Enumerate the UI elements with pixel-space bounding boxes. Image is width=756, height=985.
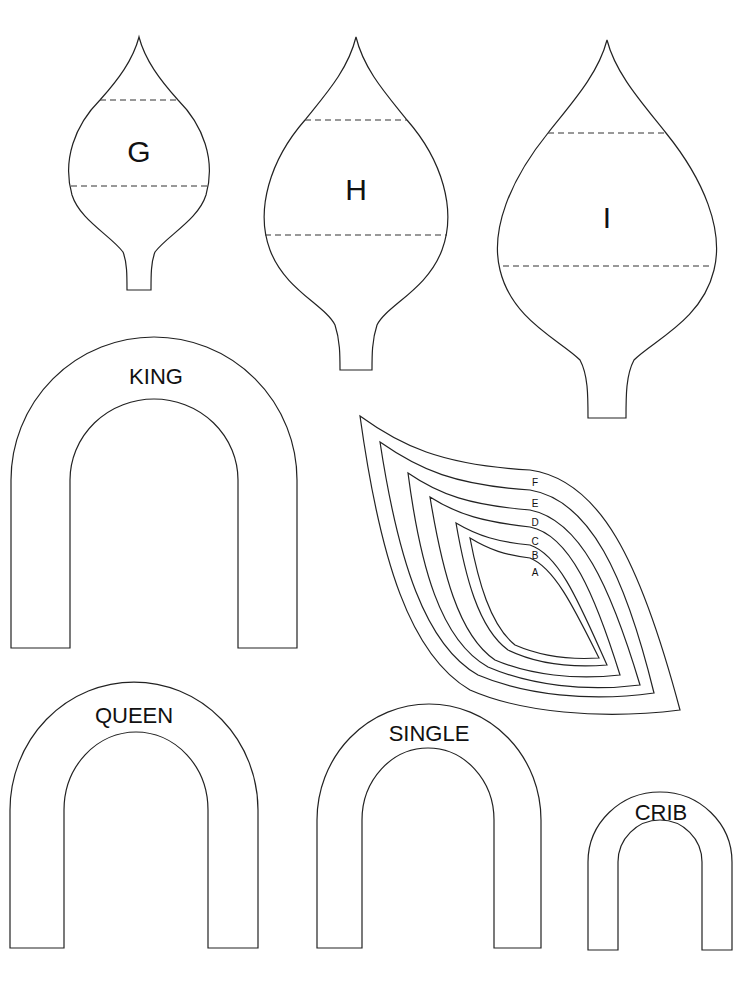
petal-i-label: I [603, 201, 611, 234]
petal-h-label: H [345, 173, 367, 206]
arch-queen-label: QUEEN [95, 703, 173, 728]
leaf-size-label-d: D [531, 517, 538, 528]
petal-i: I [497, 40, 716, 418]
leaf-size-label-c: C [531, 536, 538, 547]
template-sheet: G H I F E D C B A KING QUEEN [0, 0, 756, 985]
leaf-size-label-b: B [532, 550, 539, 561]
petal-g-label: G [127, 135, 150, 168]
arch-queen: QUEEN [10, 682, 258, 948]
petal-g: G [69, 37, 210, 290]
arch-king-label: KING [129, 364, 183, 389]
arch-crib-label: CRIB [635, 800, 688, 825]
arch-king: KING [11, 337, 297, 648]
leaf-size-label-e: E [532, 498, 539, 509]
arch-single: SINGLE [317, 704, 541, 948]
petal-h: H [264, 37, 448, 370]
leaf-outline-f [360, 416, 680, 714]
leaf-outline-d [408, 473, 640, 688]
leaf-template: F E D C B A [360, 416, 680, 714]
leaf-size-label-a: A [532, 567, 539, 578]
leaf-size-label-f: F [532, 477, 538, 488]
arch-single-label: SINGLE [389, 721, 470, 746]
arch-crib: CRIB [588, 792, 732, 950]
leaf-outline-e [380, 442, 654, 697]
